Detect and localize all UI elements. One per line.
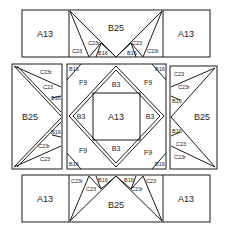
center-b16-tr-label: B16 [155,66,165,72]
center-b16-br-label: B16 [155,161,165,167]
top-b25-label: B25 [108,23,124,33]
bottom-c23-right-label: C23 [146,178,156,184]
right-c23-top-label: C23 [174,71,184,77]
left-c23r-bottom-label: C23r [38,143,50,149]
top-c23-label: C23 [72,48,82,54]
bottom-band: A13 B25 A13 C23r C23 B16 B16 C23r C23 [22,175,210,222]
top-left-a13-label: A13 [37,29,53,39]
left-c23-top-label: C23 [43,84,53,90]
top-right-a13-label: A13 [178,29,194,39]
center-b16-bl-label: B16 [69,161,79,167]
left-block: B25 C23r C23 B16 B16 C23r C23 [12,64,62,169]
right-c23-bottom-label: C23 [176,141,186,147]
center-b3-right-label: B3 [146,113,155,120]
center-f9-tl-label: F9 [79,79,87,86]
center-f9-tr-label: F9 [144,79,152,86]
bottom-left-a13-label: A13 [37,194,53,204]
bottom-b16-right-label: B16 [124,177,134,183]
left-b16-bottom-label: B16 [51,129,61,135]
right-b16-top-label: B16 [172,98,182,104]
center-b3-left-label: B3 [77,113,86,120]
bottom-c23r-right-label: C23r [131,186,143,192]
top-b16-left-label: B16 [98,50,108,56]
center-a13-label: A13 [108,112,124,122]
top-c23-right-label: C23 [132,40,142,46]
center-b16-tl-label: B16 [69,66,79,72]
top-c23r-label: C23r [88,40,100,46]
right-b16-bottom-label: B16 [172,128,182,134]
left-c23r-top-label: C23r [40,69,52,75]
right-b25-label: B25 [194,112,210,122]
right-block: B25 C23 C23r B16 B16 C23 C23r [170,66,217,169]
bottom-b25-label: B25 [108,200,124,210]
bottom-right-a13-label: A13 [178,194,194,204]
left-b25-label: B25 [22,112,38,122]
top-band: A13 B25 A13 C23 C23r B16 B16 C23 C23r [22,10,210,57]
top-b16-right-label: B16 [127,50,137,56]
center-f9-bl-label: F9 [79,147,87,154]
bottom-c23r-label: C23r [71,178,83,184]
quilt-diagram-svg: A13 B25 A13 C23 C23r B16 B16 C23 C23r B2… [0,0,227,233]
bottom-c23-label: C23 [86,186,96,192]
top-c23r-right-label: C23r [147,48,159,54]
left-c23-bottom-label: C23 [40,156,50,162]
center-b3-top-label: B3 [112,81,121,88]
bottom-b16-left-label: B16 [98,177,108,183]
center-f9-br-label: F9 [144,149,152,156]
quilt-diagram: A13 B25 A13 C23 C23r B16 B16 C23 C23r B2… [0,0,227,233]
center-block: A13 B3 B3 B3 B3 F9 F9 F9 F9 B16 B16 B16 … [67,64,166,169]
right-c23r-top-label: C23r [178,84,190,90]
right-c23r-bottom-label: C23r [174,154,186,160]
left-b16-top-label: B16 [51,95,61,101]
center-b3-bottom-label: B3 [112,145,121,152]
